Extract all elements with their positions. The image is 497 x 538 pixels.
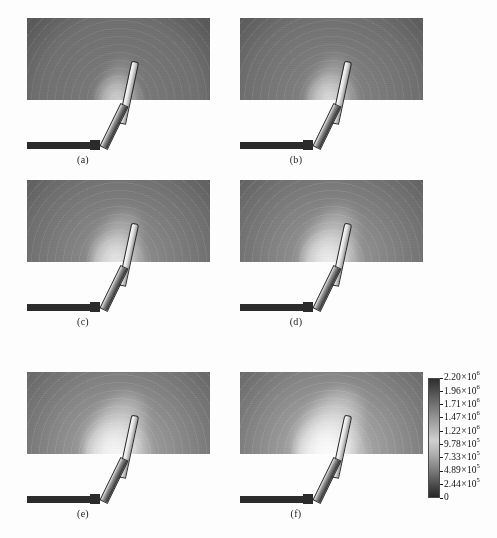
figure-canvas: (a) (b) (c) — [0, 0, 497, 538]
colorbar-tick-label-1: 1.96×106 — [444, 386, 480, 396]
raster-noise-f — [240, 372, 423, 454]
raster-noise-d — [240, 180, 423, 262]
colorbar-legend: 2.20×1061.96×1061.71×1061.47×1061.22×106… — [428, 378, 497, 500]
base-bar-e — [27, 496, 95, 503]
base-bar-f — [240, 496, 308, 503]
colorbar-tick-mark-7 — [440, 471, 443, 472]
raster-noise-e — [27, 372, 210, 454]
colorbar-tick-mark-1 — [440, 391, 443, 392]
colorbar-tick-mark-0 — [440, 378, 443, 379]
colorbar-tick-mark-4 — [440, 431, 443, 432]
colorbar-tick-label-2: 1.71×106 — [444, 399, 480, 409]
panel-c: (c) — [12, 176, 210, 331]
colorbar-tick-mark-8 — [440, 484, 443, 485]
base-joint-a — [90, 140, 100, 150]
colorbar-tick-label-0: 2.20×106 — [444, 373, 480, 383]
base-bar-c — [27, 304, 95, 311]
base-joint-e — [90, 494, 100, 504]
base-bar-a — [27, 142, 95, 149]
colorbar-tick-label-3: 1.47×106 — [444, 413, 480, 423]
base-joint-f — [303, 494, 313, 504]
field-domain-c — [27, 180, 210, 262]
panel-b: (b) — [225, 14, 423, 169]
colorbar-tick-label-5: 9.78×105 — [444, 439, 480, 449]
raster-noise-b — [240, 18, 423, 100]
field-domain-e — [27, 372, 210, 454]
panel-a: (a) — [12, 14, 210, 169]
raster-noise-a — [27, 18, 210, 100]
base-joint-d — [303, 302, 313, 312]
colorbar-tick-label-8: 2.44×105 — [444, 479, 480, 489]
base-bar-b — [240, 142, 308, 149]
colorbar-tick-mark-5 — [440, 444, 443, 445]
field-domain-b — [240, 18, 423, 100]
base-joint-c — [90, 302, 100, 312]
colorbar-tick-mark-9 — [440, 498, 443, 499]
panel-label-d: (d) — [225, 316, 423, 327]
colorbar-tick-label-6: 7.33×105 — [444, 453, 480, 463]
panel-f: (f) — [225, 368, 423, 523]
field-domain-a — [27, 18, 210, 100]
panel-label-f: (f) — [225, 508, 423, 519]
panel-label-c: (c) — [12, 316, 210, 327]
colorbar-gradient-strip — [428, 378, 440, 498]
colorbar-tick-label-9: 0 — [444, 493, 449, 503]
colorbar-tick-mark-2 — [440, 404, 443, 405]
colorbar-tick-label-7: 4.89×105 — [444, 466, 480, 476]
panel-d: (d) — [225, 176, 423, 331]
base-bar-d — [240, 304, 308, 311]
raster-noise-c — [27, 180, 210, 262]
colorbar-tick-list: 2.20×1061.96×1061.71×1061.47×1061.22×106… — [440, 378, 496, 498]
panel-label-b: (b) — [225, 154, 423, 165]
panel-label-a: (a) — [12, 154, 210, 165]
base-joint-b — [303, 140, 313, 150]
colorbar-tick-mark-6 — [440, 457, 443, 458]
colorbar-tick-label-4: 1.22×106 — [444, 426, 480, 436]
colorbar-tick-mark-3 — [440, 417, 443, 418]
panel-e: (e) — [12, 368, 210, 523]
panel-label-e: (e) — [12, 508, 210, 519]
field-domain-f — [240, 372, 423, 454]
field-domain-d — [240, 180, 423, 262]
